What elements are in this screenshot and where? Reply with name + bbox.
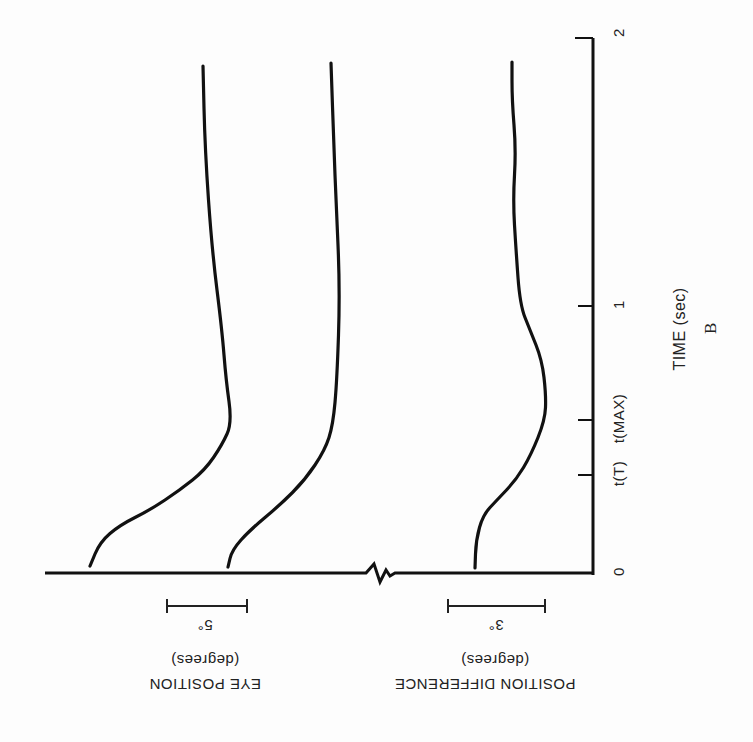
position-difference-title: POSITION DIFFERENCE bbox=[380, 676, 590, 693]
eye-position-title: EYE POSITION bbox=[125, 676, 285, 693]
position-difference-trace bbox=[475, 62, 546, 568]
tick-label-1: 1 bbox=[610, 295, 627, 315]
tick-label-tt: t(T) bbox=[610, 454, 627, 494]
eye-scale-label: 5° bbox=[185, 617, 225, 634]
diff-scale-bar bbox=[448, 599, 545, 613]
eye-position-trace-1 bbox=[90, 66, 230, 566]
tick-label-2: 2 bbox=[610, 23, 627, 43]
eye-position-trace-2 bbox=[228, 63, 339, 567]
diff-scale-label: 3° bbox=[476, 617, 516, 634]
chart-plot-area bbox=[0, 0, 753, 742]
time-axis-title: TIME (sec) bbox=[671, 269, 689, 389]
eye-unit-label: (degrees) bbox=[145, 652, 265, 669]
tick-label-0: 0 bbox=[610, 562, 627, 582]
panel-letter: B bbox=[701, 318, 721, 338]
diff-unit-label: (degrees) bbox=[435, 652, 555, 669]
value-axis-line bbox=[45, 564, 593, 582]
tick-label-tmax: t(MAX) bbox=[610, 389, 627, 449]
eye-scale-bar bbox=[167, 599, 247, 613]
